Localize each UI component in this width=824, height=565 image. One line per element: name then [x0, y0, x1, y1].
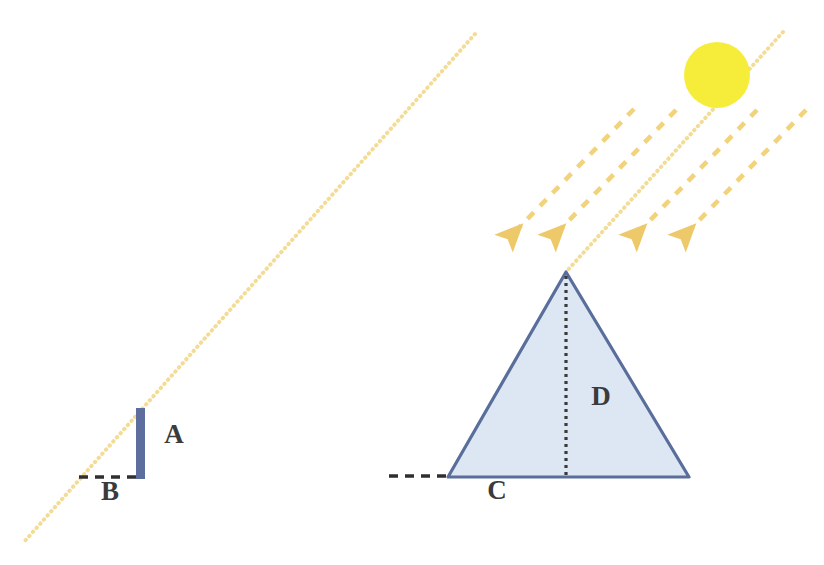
- sun-icon: [684, 42, 750, 108]
- label-pyramid-height: D: [591, 381, 611, 411]
- label-pole-shadow: B: [101, 476, 119, 506]
- pyramid-triangle: [448, 272, 689, 477]
- sun-ray-arrow-4: [681, 110, 806, 239]
- dotted-ray-to-pyramid-apex: [566, 32, 783, 272]
- label-pyramid-shadow: C: [487, 475, 507, 505]
- sun-ray-arrow-group: [508, 109, 806, 239]
- dotted-ray-to-pole: [24, 34, 475, 542]
- figure-canvas: A B C D: [0, 0, 824, 565]
- shadow-similar-triangles-diagram: A B C D: [0, 0, 824, 565]
- label-pole-height: A: [164, 419, 184, 449]
